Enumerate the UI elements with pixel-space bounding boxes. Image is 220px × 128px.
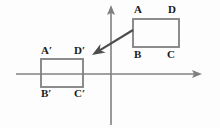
vertex-label-a-prime: A′ [41,45,52,56]
vertex-label-b-prime: B′ [41,88,51,99]
rectangle-a-prime-b-prime-c-prime-d-prime [41,59,83,87]
geometry-figure: A D B C A′ D′ B′ C′ [0,0,220,128]
vertex-label-d: D [168,4,176,15]
vertex-label-c-prime: C′ [74,88,85,99]
translation-arrow-head-icon [92,44,106,55]
rectangle-abcd [133,19,179,47]
figure-canvas [0,0,220,128]
x-axis [16,70,202,78]
translation-arrow [92,30,133,55]
y-axis [107,5,115,125]
vertex-label-b: B [134,49,141,60]
vertex-label-c: C [167,49,175,60]
vertex-label-a: A [134,4,142,15]
vertex-label-d-prime: D′ [74,45,85,56]
translation-arrow-shaft [99,30,133,51]
